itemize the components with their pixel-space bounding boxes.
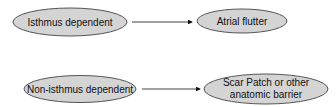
- node-isthmus-dependent: Isthmus dependent: [13, 8, 127, 36]
- node-label-line2: anatomic barrier: [230, 89, 303, 100]
- node-label: Non-isthmus dependent: [27, 84, 133, 95]
- node-label: Isthmus dependent: [27, 17, 112, 28]
- node-label: Atrial flutter: [217, 16, 268, 27]
- node-label-line1: Scar Patch or other: [223, 77, 310, 88]
- flow-diagram: Isthmus dependent Atrial flutter Non-ist…: [0, 0, 336, 107]
- node-scar-patch: Scar Patch or other anatomic barrier: [204, 74, 328, 104]
- node-non-isthmus-dependent: Non-isthmus dependent: [24, 76, 136, 103]
- node-atrial-flutter: Atrial flutter: [197, 9, 287, 33]
